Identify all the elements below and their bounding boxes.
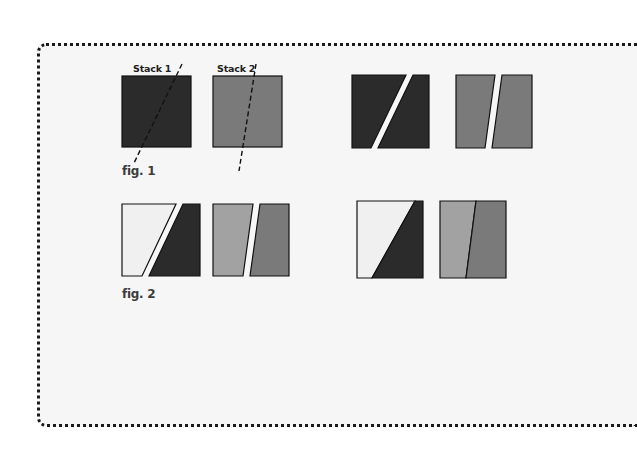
fig-1-caption: fig. 1 — [122, 164, 155, 178]
fig2-stack-2-right — [250, 204, 289, 276]
stack-1-block — [122, 76, 191, 147]
stack-1-label: Stack 1 — [133, 63, 171, 74]
stack-2-cut-right — [492, 75, 532, 148]
fig-2-caption: fig. 2 — [122, 287, 155, 301]
stack-2-label: Stack 2 — [217, 63, 255, 74]
stack-2-cut-left — [456, 75, 495, 148]
fig2-stack-2-left — [213, 204, 253, 276]
stack-2-block — [213, 76, 282, 147]
